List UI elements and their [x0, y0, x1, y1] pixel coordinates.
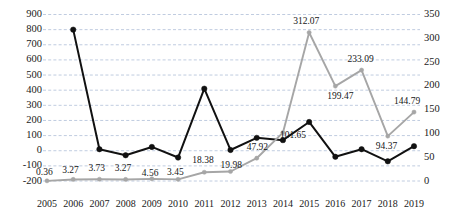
data-label: 94.37	[376, 142, 397, 152]
y-axis-right-tick: 350	[424, 9, 453, 20]
y-axis-right-tick: 150	[424, 104, 453, 115]
y-axis-left-tick: 200	[0, 115, 42, 126]
y-axis-right-tick: 200	[424, 80, 453, 91]
y-axis-left-tick: 700	[0, 39, 42, 50]
data-label: 18.38	[192, 156, 213, 166]
x-axis-tick: 2019	[397, 199, 431, 209]
data-label: 4.56	[142, 169, 159, 179]
data-label: 233.09	[348, 55, 374, 65]
y-axis-right-tick: 250	[424, 57, 453, 68]
data-label: 3.45	[167, 168, 184, 178]
y-axis-left-tick: 400	[0, 85, 42, 96]
y-axis-right-tick: 0	[424, 176, 453, 187]
y-axis-left-tick: 300	[0, 100, 42, 111]
series-black-series	[71, 27, 417, 164]
y-axis-left-tick: 0	[0, 145, 42, 156]
data-label: 47.92	[247, 143, 268, 153]
y-axis-left-tick: 100	[0, 130, 42, 141]
y-axis-left-tick: 500	[0, 70, 42, 81]
gridlines	[43, 15, 420, 182]
y-axis-right-tick: 100	[424, 128, 453, 139]
data-label: 3.27	[62, 166, 79, 176]
y-axis-right-tick: 300	[424, 33, 453, 44]
data-label: 144.79	[394, 97, 420, 107]
data-label: 3.27	[115, 164, 132, 174]
data-label: 101.65	[280, 131, 306, 141]
y-axis-left-tick: 600	[0, 54, 42, 65]
chart-plot-area	[0, 0, 453, 219]
y-axis-left-tick: 800	[0, 24, 42, 35]
dual-axis-line-chart: 9008007006005004003002001000-100-2003503…	[0, 0, 453, 219]
data-label: 3.73	[88, 164, 105, 174]
data-label: 199.47	[327, 92, 353, 102]
data-label: 312.07	[293, 17, 319, 27]
data-label: 19.98	[221, 161, 242, 171]
y-axis-left-tick: 900	[0, 9, 42, 20]
data-label: 0.36	[36, 168, 53, 178]
y-axis-right-tick: 50	[424, 152, 453, 163]
